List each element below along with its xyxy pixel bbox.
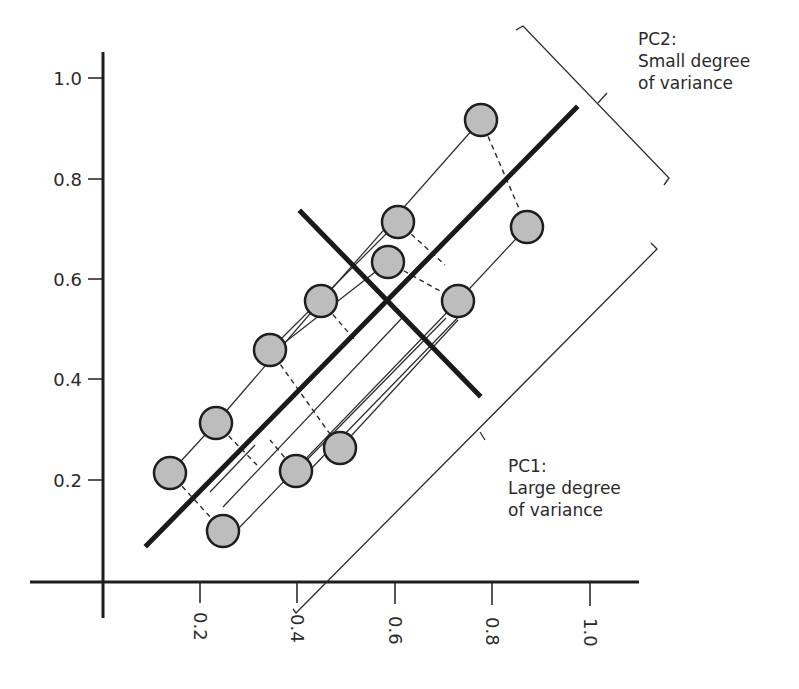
data-point: [200, 407, 232, 439]
x-tick-label: 0.2: [190, 612, 211, 641]
pc2-annotation: PC2: Small degree of variance: [638, 28, 750, 94]
pc1-title: PC1:: [508, 455, 621, 477]
pc1-annotation: PC1: Large degree of variance: [508, 455, 621, 521]
data-point: [207, 515, 239, 547]
y-tick-label: 0.6: [53, 269, 82, 290]
pc2-title: PC2:: [638, 28, 750, 50]
pc1-line1: Large degree: [508, 477, 621, 499]
data-point: [305, 285, 337, 317]
y-tick-label: 1.0: [53, 68, 82, 89]
x-tick-label: 0.4: [287, 614, 308, 643]
x-tick-label: 0.6: [385, 616, 406, 645]
data-point: [372, 246, 404, 278]
data-point: [465, 104, 497, 136]
pc1-line2: of variance: [508, 499, 621, 521]
data-point: [324, 432, 356, 464]
y-tick-label: 0.8: [53, 169, 82, 190]
pca-diagram: 1.0 0.8 0.6 0.4 0.2 0.2 0.4 0.6 0.8 1.0: [0, 0, 799, 689]
data-point: [280, 455, 312, 487]
data-point: [154, 457, 186, 489]
data-point: [511, 211, 543, 243]
y-tick-label: 0.4: [53, 369, 82, 390]
y-tick-label: 0.2: [53, 470, 82, 491]
pc2-line1: Small degree: [638, 50, 750, 72]
data-point: [442, 285, 474, 317]
data-point: [382, 206, 414, 238]
pc2-line2: of variance: [638, 72, 750, 94]
data-point: [254, 334, 286, 366]
x-tick-label: 1.0: [580, 618, 601, 647]
x-tick-label: 0.8: [482, 617, 503, 646]
